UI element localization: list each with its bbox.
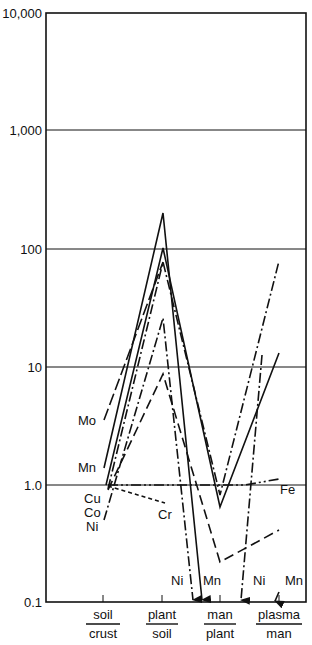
y-tick-1: 1.0 [24, 478, 42, 493]
chart: 10,000 1,000 100 10 1.0 0.1 Mo Mn Cu C [0, 0, 312, 645]
label-cr: Cr [158, 507, 172, 522]
label-ni: Ni [86, 519, 98, 534]
series-cr [108, 486, 165, 503]
series-co [108, 261, 279, 495]
x-category-man-plant: man plant [204, 607, 236, 641]
x-category-soil-crust: soil crust [86, 607, 120, 641]
svg-text:crust: crust [89, 626, 118, 641]
label-mo: Mo [78, 413, 96, 428]
label-arrow-mn-1: Mn [203, 573, 221, 588]
svg-text:plant: plant [148, 607, 177, 622]
y-tick-10: 10 [28, 360, 42, 375]
label-co: Co [84, 505, 101, 520]
x-category-plant-soil: plant soil [146, 607, 178, 641]
y-tick-10000: 10,000 [2, 6, 42, 21]
label-arrow-ni-2: Ni [253, 573, 265, 588]
y-tick-0.1: 0.1 [24, 595, 42, 610]
svg-text:soil: soil [93, 607, 113, 622]
series-ni-plasma [241, 355, 262, 600]
label-arrow-ni-1: Ni [171, 573, 183, 588]
label-cu: Cu [84, 491, 101, 506]
label-fe: Fe [280, 482, 295, 497]
series-mn-plasma [275, 592, 279, 601]
x-category-plasma-man: plasma man [256, 607, 302, 641]
svg-text:man: man [266, 626, 291, 641]
series-long-dash [108, 374, 279, 562]
y-tick-1000: 1,000 [9, 123, 42, 138]
svg-text:man: man [207, 607, 232, 622]
series-fe [108, 479, 279, 485]
label-mn: Mn [78, 460, 96, 475]
y-tick-100: 100 [20, 242, 42, 257]
series-ni [104, 318, 193, 600]
label-arrow-mn-2: Mn [285, 573, 303, 588]
svg-text:plant: plant [206, 626, 235, 641]
series [104, 213, 279, 601]
svg-text:soil: soil [152, 626, 172, 641]
x-ticks [103, 595, 279, 602]
svg-text:plasma: plasma [258, 607, 301, 622]
